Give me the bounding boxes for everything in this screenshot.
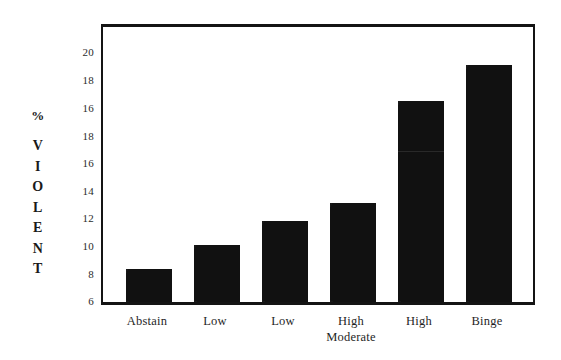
- bar-low-1: [194, 245, 240, 302]
- bar-binge: [466, 65, 512, 302]
- y-axis-letter: L: [18, 198, 58, 219]
- y-axis-tick-label: 10: [58, 240, 94, 252]
- y-axis-tick-label: 18: [58, 130, 94, 142]
- x-axis-label-line: Low: [271, 314, 295, 328]
- y-axis-letter: V: [18, 136, 58, 157]
- y-axis-letter: T: [18, 259, 58, 280]
- x-axis-label-line: High: [338, 314, 364, 328]
- plot-area: [101, 24, 535, 305]
- bar-high: [398, 101, 444, 302]
- x-axis-label-line: Abstain: [127, 314, 167, 328]
- y-axis-letter: E: [18, 218, 58, 239]
- x-axis-label-line: High: [406, 314, 432, 328]
- bar-chart-figure: % V I O L E N T 20 18 16 18 16 14 12 10 …: [0, 0, 561, 360]
- y-axis-vertical-word: V I O L E N T: [18, 136, 58, 280]
- y-axis-letter: I: [18, 157, 58, 178]
- y-axis-tick-label: 12: [58, 212, 94, 224]
- bar-low-2: [262, 221, 308, 302]
- y-axis-tick-label: 6: [58, 295, 94, 307]
- y-axis-title: % V I O L E N T: [18, 108, 58, 280]
- x-axis-label-line: Binge: [472, 314, 503, 328]
- x-axis-label-binge: Binge: [441, 313, 533, 329]
- x-axis-label-line: Low: [203, 314, 227, 328]
- y-axis-letter: O: [18, 177, 58, 198]
- bar-abstain: [126, 269, 172, 302]
- y-axis-tick-label: 16: [58, 102, 94, 114]
- x-axis-category-labels: Abstain Low Low High Moderate High Binge: [101, 313, 535, 357]
- bar-high-moderate: [330, 203, 376, 302]
- x-axis-label-line: Moderate: [305, 329, 397, 345]
- y-axis-tick-labels: 20 18 16 18 16 14 12 10 8 6: [56, 0, 94, 360]
- y-axis-tick-label: 18: [58, 74, 94, 86]
- y-axis-letter: N: [18, 239, 58, 260]
- y-axis-tick-label: 20: [58, 46, 94, 58]
- y-axis-percent-symbol: %: [18, 108, 58, 123]
- y-axis-tick-label: 8: [58, 268, 94, 280]
- y-axis-tick-label: 14: [58, 185, 94, 197]
- bars-layer: [103, 27, 533, 302]
- y-axis-tick-label: 16: [58, 157, 94, 169]
